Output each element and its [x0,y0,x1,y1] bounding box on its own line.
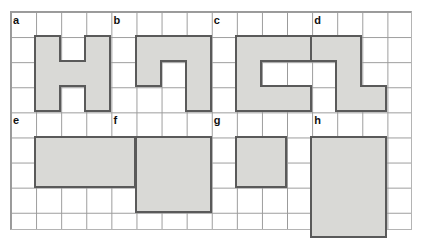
shape-f-square-3x3 [136,137,211,212]
shape-label-h: h [314,115,321,126]
shape-edge-top [335,136,362,138]
shape-cell [361,162,387,188]
shape-edge-right [210,161,212,188]
shape-edge-right [59,35,61,62]
shape-cell [60,137,86,163]
shape-edge-right [385,211,387,238]
shape-edge-bottom [84,186,111,188]
shape-edge-top [59,136,86,138]
shape-cell [236,86,262,112]
shape-edge-bottom [59,85,86,87]
shape-edge-right [385,85,387,112]
shape-cell [311,187,337,213]
shape-edge-right [385,161,387,188]
shape-edge-right [109,85,111,112]
shape-g-square-2x2 [236,137,286,187]
shape-cell [236,61,262,87]
shape-edge-left [84,85,86,112]
shape-cell [336,137,362,163]
shape-cell [311,137,337,163]
shape-edge-bottom [360,110,387,112]
shape-d-z-shape [311,36,386,111]
shape-edge-top [185,35,212,37]
shape-edge-bottom [335,236,362,238]
shape-layer: abcdefgh [10,11,412,230]
shape-edge-bottom [160,211,187,213]
shape-edge-left [310,136,312,163]
shape-edge-bottom [310,60,337,62]
shape-edge-top [235,35,262,37]
shape-edge-bottom [360,236,387,238]
shape-cell [261,36,287,62]
shape-cell [110,162,136,188]
shape-cell [336,61,362,87]
shape-edge-bottom [160,60,187,62]
shape-edge-bottom [34,186,61,188]
shape-edge-left [235,60,237,87]
shape-edge-top [160,136,187,138]
shape-edge-left [310,186,312,213]
shape-edge-right [360,35,362,62]
shape-cell [35,162,61,188]
shape-cell [336,187,362,213]
shape-cell [361,187,387,213]
shape-edge-left [310,211,312,238]
shape-cell [361,137,387,163]
shape-cell [60,162,86,188]
shape-edge-bottom [335,110,362,112]
shape-edge-bottom [260,60,287,62]
shape-cell [186,137,212,163]
shape-label-c: c [214,15,220,26]
shape-edge-right [385,136,387,163]
shape-cell [361,86,387,112]
shape-edge-bottom [59,186,86,188]
shape-edge-left [235,136,237,163]
shape-label-a: a [13,15,19,26]
shape-edge-bottom [285,60,312,62]
shape-edge-top [34,136,61,138]
shape-edge-left [84,35,86,62]
shape-edge-bottom [260,110,287,112]
shape-edge-left [310,161,312,188]
shape-edge-left [185,85,187,112]
shape-edge-bottom [135,85,162,87]
shape-edge-top [34,35,61,37]
shape-edge-right [285,136,287,163]
shape-cell [261,86,287,112]
shape-edge-left [235,85,237,112]
shape-edge-left [335,85,337,112]
shape-label-g: g [214,115,221,126]
shape-edge-top [84,136,111,138]
shape-edge-left [34,60,36,87]
shape-label-e: e [13,115,19,126]
shape-cell [236,162,262,188]
shape-edge-top [135,136,162,138]
shape-edge-top [109,136,136,138]
shape-cell [236,36,262,62]
shape-edge-right [385,186,387,213]
shape-cell [186,187,212,213]
shape-edge-bottom [185,211,212,213]
shape-edge-left [185,60,187,87]
shape-edge-right [210,60,212,87]
shape-cell [35,137,61,163]
shape-e-rectangle-4x2 [35,137,135,187]
shape-cell [136,162,162,188]
shape-cell [361,212,387,238]
shape-cell [85,36,111,62]
shape-cell [136,61,162,87]
shape-cell [85,86,111,112]
shape-edge-top [260,35,287,37]
shape-label-d: d [314,15,321,26]
shape-cell [85,61,111,87]
shape-a-h-shape [35,36,110,111]
shape-cell [161,162,187,188]
shape-cell [85,162,111,188]
shape-edge-top [135,35,162,37]
worksheet: abcdefgh [0,0,422,239]
shape-cell [186,36,212,62]
shape-edge-bottom [109,186,136,188]
shape-cell [186,162,212,188]
shape-edge-right [210,85,212,112]
shape-cell [85,137,111,163]
